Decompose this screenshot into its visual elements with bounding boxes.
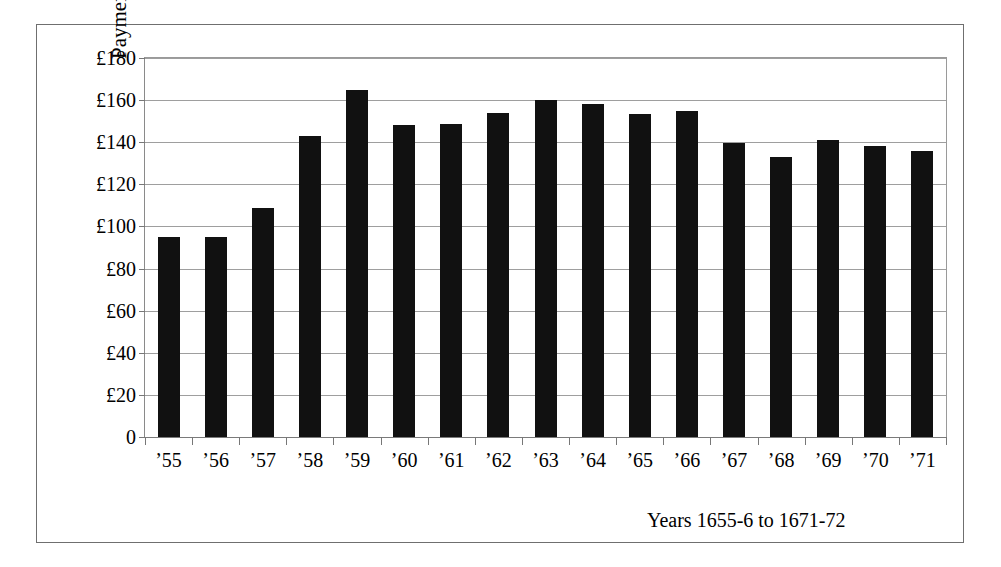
x-axis-tick-label: ’67 [721,450,748,470]
x-axis-tick-label: ’63 [532,450,559,470]
bar [299,136,321,437]
x-axis-tick-label: ’69 [815,450,842,470]
x-axis-tick [239,437,240,445]
y-axis-tick [139,58,145,59]
x-axis-tick-label: ’58 [297,450,324,470]
x-axis-tick [663,437,664,445]
x-axis-tick [286,437,287,445]
y-axis-tick [139,226,145,227]
y-axis-tick [139,184,145,185]
bar [393,125,415,437]
bar [817,140,839,437]
bar [676,111,698,437]
y-axis-tick-label: £40 [58,343,136,363]
bar [629,114,651,437]
x-axis-tick [333,437,334,445]
y-axis-tick-label: £140 [58,132,136,152]
x-axis-tick [192,437,193,445]
x-axis-tick-label: ’70 [862,450,889,470]
x-axis-tick-label: ’56 [202,450,229,470]
x-axis-tick-label: ’55 [155,450,182,470]
x-axis-tick [805,437,806,445]
bar [440,124,462,437]
x-axis-tick-label: ’62 [485,450,512,470]
x-axis-tick-label: ’71 [909,450,936,470]
gridline [145,58,946,59]
x-axis-tick [946,437,947,445]
y-axis-tick [139,269,145,270]
x-axis-tick [758,437,759,445]
x-axis-tick-label: ’68 [768,450,795,470]
x-axis-tick [852,437,853,445]
y-axis-tick [139,311,145,312]
bar [723,143,745,437]
x-axis-tick [710,437,711,445]
figure-frame: Payments 0£20£40£60£80£100£120£140£160£1… [36,24,964,543]
x-axis-tick-label: ’61 [438,450,465,470]
y-axis-tick-label: £80 [58,259,136,279]
x-axis-tick [569,437,570,445]
x-axis-tick [616,437,617,445]
y-axis-tick-label: £160 [58,90,136,110]
x-axis-caption: Years 1655-6 to 1671-72 [647,509,846,532]
y-axis-tick [139,353,145,354]
y-axis-tick [139,395,145,396]
x-axis-tick [428,437,429,445]
x-axis-tick [145,437,146,445]
y-axis-tick-label: 0 [58,427,136,447]
y-axis-tick-label: £20 [58,385,136,405]
bar [770,157,792,437]
x-axis-tick-label: ’66 [674,450,701,470]
x-axis-tick-label: ’60 [391,450,418,470]
bar [535,100,557,437]
y-axis-tick-label: £180 [58,48,136,68]
y-axis-tick [139,142,145,143]
x-axis-tick-label: ’64 [579,450,606,470]
bar [487,113,509,437]
y-axis-tick-label: £100 [58,216,136,236]
bar [252,208,274,438]
y-axis-tick-label: £120 [58,174,136,194]
x-axis-tick [475,437,476,445]
bar [911,151,933,437]
bar [864,146,886,437]
x-axis-tick [899,437,900,445]
bar [346,90,368,437]
y-axis-tick-label: £60 [58,301,136,321]
bar [582,104,604,437]
plot-area: 0£20£40£60£80£100£120£140£160£180’55’56’… [144,57,947,438]
x-axis-tick [522,437,523,445]
y-axis-tick [139,100,145,101]
x-axis-tick [381,437,382,445]
x-axis-tick-label: ’65 [626,450,653,470]
bar [158,237,180,437]
x-axis-tick-label: ’57 [249,450,276,470]
x-axis-tick-label: ’59 [344,450,371,470]
bar [205,237,227,437]
